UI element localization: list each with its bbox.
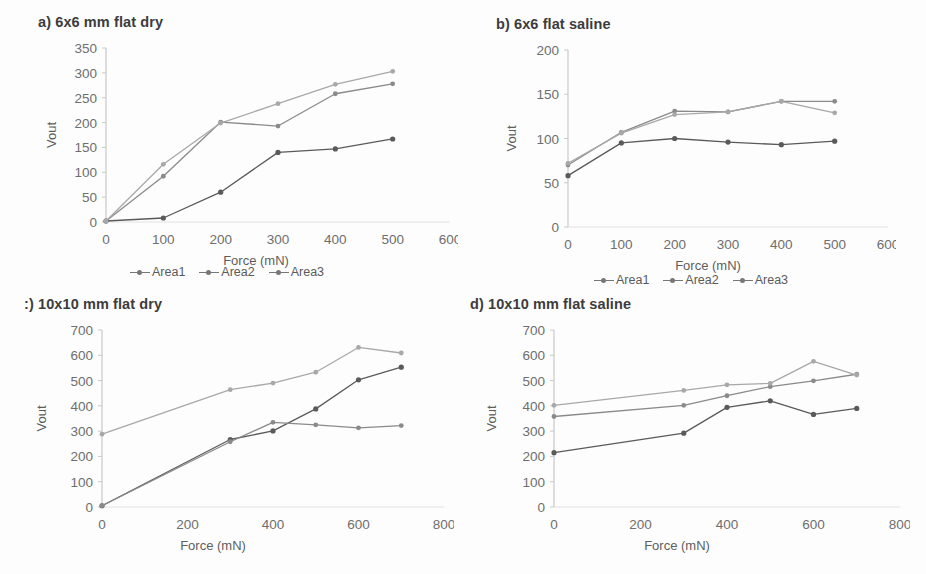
panel-a-legend: Area1 Area2 Area3 [130, 266, 324, 279]
svg-text:0: 0 [85, 500, 93, 515]
svg-text:400: 400 [716, 517, 739, 532]
svg-text:500: 500 [823, 237, 846, 252]
svg-text:300: 300 [70, 424, 93, 439]
svg-text:600: 600 [522, 348, 545, 363]
svg-text:100: 100 [152, 232, 175, 247]
svg-text:800: 800 [433, 517, 454, 532]
panel-a-chart: 0501001502002503003500100200300400500600… [38, 38, 458, 278]
svg-text:Force (mN): Force (mN) [180, 538, 246, 553]
svg-text:100: 100 [522, 475, 545, 490]
svg-text:Vout: Vout [44, 122, 59, 148]
svg-text:150: 150 [536, 87, 559, 102]
panel-a-plot: 0501001502002503003500100200300400500600… [38, 38, 458, 278]
panel-c-chart: 01002003004005006007000200400600800Force… [24, 320, 454, 565]
svg-text:150: 150 [74, 140, 97, 155]
svg-text:700: 700 [522, 323, 545, 338]
svg-text:600: 600 [70, 348, 93, 363]
svg-text:700: 700 [70, 323, 93, 338]
svg-text:0: 0 [564, 237, 572, 252]
svg-text:200: 200 [176, 517, 199, 532]
svg-text:500: 500 [381, 232, 404, 247]
svg-text:50: 50 [544, 176, 559, 191]
legend-item-area3: Area3 [733, 274, 788, 287]
legend-marker-icon [733, 280, 753, 281]
svg-text:200: 200 [536, 43, 559, 58]
svg-text:400: 400 [770, 237, 793, 252]
panel-b: b) 6x6 flat saline 050100150200010020030… [496, 16, 896, 285]
svg-text:Vout: Vout [34, 405, 49, 431]
panel-c-plot: 01002003004005006007000200400600800Force… [24, 320, 454, 565]
legend-marker-icon [130, 272, 150, 273]
legend-label: Area3 [755, 274, 788, 287]
legend-marker-icon [663, 280, 683, 281]
legend-label: Area3 [291, 266, 324, 279]
legend-marker-icon [199, 272, 219, 273]
panel-a: a) 6x6 mm flat dry 050100150200250300350… [38, 14, 458, 278]
svg-text:50: 50 [82, 190, 97, 205]
svg-text:300: 300 [717, 237, 740, 252]
svg-text:800: 800 [889, 517, 910, 532]
svg-text:200: 200 [522, 449, 545, 464]
legend-marker-icon [594, 280, 614, 281]
panel-b-chart: 0501001502000100200300400500600Force (mN… [496, 40, 896, 285]
svg-text:Force (mN): Force (mN) [675, 258, 741, 273]
legend-item-area2: Area2 [663, 274, 718, 287]
panel-d-chart: 01002003004005006007000200400600800Force… [470, 320, 910, 565]
panel-a-title: a) 6x6 mm flat dry [38, 14, 458, 30]
svg-text:300: 300 [267, 232, 290, 247]
figure-canvas: a) 6x6 mm flat dry 050100150200250300350… [0, 0, 926, 574]
panel-b-legend: Area1 Area2 Area3 [594, 274, 788, 287]
svg-text:600: 600 [877, 237, 896, 252]
svg-text:0: 0 [550, 517, 558, 532]
svg-text:100: 100 [70, 475, 93, 490]
svg-text:200: 200 [74, 116, 97, 131]
svg-text:350: 350 [74, 41, 97, 56]
panel-d-plot: 01002003004005006007000200400600800Force… [470, 320, 910, 565]
svg-text:400: 400 [324, 232, 347, 247]
svg-text:0: 0 [98, 517, 106, 532]
svg-text:300: 300 [522, 424, 545, 439]
legend-item-area1: Area1 [594, 274, 649, 287]
svg-text:0: 0 [89, 215, 97, 230]
svg-text:200: 200 [209, 232, 232, 247]
svg-text:Force (mN): Force (mN) [644, 538, 710, 553]
svg-text:600: 600 [347, 517, 370, 532]
legend-label: Area2 [221, 266, 254, 279]
legend-item-area1: Area1 [130, 266, 185, 279]
svg-text:400: 400 [522, 399, 545, 414]
panel-c-title: :) 10x10 mm flat dry [24, 296, 454, 312]
svg-text:100: 100 [536, 132, 559, 147]
svg-text:100: 100 [74, 165, 97, 180]
svg-text:200: 200 [629, 517, 652, 532]
svg-text:Vout: Vout [504, 125, 519, 151]
svg-text:100: 100 [610, 237, 633, 252]
panel-b-title: b) 6x6 flat saline [496, 16, 896, 32]
svg-text:200: 200 [70, 449, 93, 464]
svg-text:0: 0 [537, 500, 545, 515]
svg-text:300: 300 [74, 66, 97, 81]
svg-text:500: 500 [522, 374, 545, 389]
legend-label: Area1 [616, 274, 649, 287]
panel-b-plot: 0501001502000100200300400500600Force (mN… [496, 40, 896, 285]
legend-item-area2: Area2 [199, 266, 254, 279]
svg-text:500: 500 [70, 374, 93, 389]
legend-label: Area1 [152, 266, 185, 279]
panel-d-title: d) 10x10 mm flat saline [470, 296, 910, 312]
svg-text:Vout: Vout [484, 405, 499, 431]
legend-item-area3: Area3 [269, 266, 324, 279]
svg-text:600: 600 [439, 232, 458, 247]
svg-text:0: 0 [551, 220, 559, 235]
svg-text:200: 200 [663, 237, 686, 252]
svg-text:600: 600 [802, 517, 825, 532]
svg-text:250: 250 [74, 91, 97, 106]
svg-text:400: 400 [70, 399, 93, 414]
svg-text:400: 400 [262, 517, 285, 532]
panel-c: :) 10x10 mm flat dry 0100200300400500600… [24, 296, 454, 565]
legend-marker-icon [269, 272, 289, 273]
svg-text:0: 0 [102, 232, 110, 247]
legend-label: Area2 [685, 274, 718, 287]
panel-d: d) 10x10 mm flat saline 0100200300400500… [470, 296, 910, 565]
